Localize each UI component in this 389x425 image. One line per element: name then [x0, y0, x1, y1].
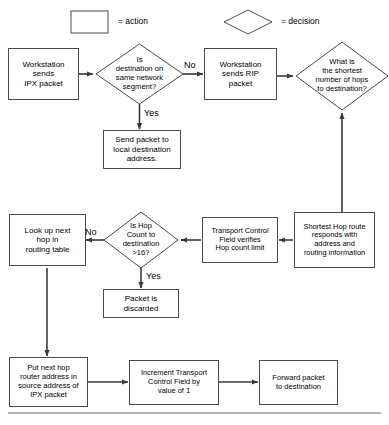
node-label: Shortest Hop route responds with address…: [295, 223, 374, 258]
node-forward-packet-to-destination[interactable]: Forward packet to destination: [259, 360, 338, 405]
decision-shape-same-segment: [96, 44, 183, 104]
edge-label-yes-top: Yes: [144, 108, 159, 118]
node-label: Forward packet to destination: [260, 374, 337, 392]
node-label: Send packet to local destination address…: [104, 135, 180, 163]
node-label: Packet is discarded: [104, 294, 178, 313]
node-workstation-sends-ipx-packet[interactable]: Workstation sends IPX packet: [8, 48, 79, 100]
node-shortest-hop-route-responds[interactable]: Shortest Hop route responds with address…: [294, 212, 375, 268]
node-send-packet-local-destination[interactable]: Send packet to local destination address…: [103, 130, 181, 169]
decision-shape-hop-count: [104, 212, 178, 268]
node-workstation-sends-rip-packet[interactable]: Workstation sends RIP packet: [204, 48, 277, 100]
node-transport-control-field-verifies[interactable]: Transport Control Field verifies Hop cou…: [202, 217, 278, 263]
legend-action-label: = action: [118, 16, 148, 26]
node-put-next-hop-router-address[interactable]: Put next hop router address in source ad…: [9, 357, 88, 407]
legend-action-shape: [71, 11, 108, 33]
edge-label-yes-mid: Yes: [146, 271, 161, 281]
node-increment-transport-control-field[interactable]: Increment Transport Control Field by val…: [129, 360, 219, 405]
node-label: Put next hop router address in source ad…: [10, 364, 87, 400]
node-look-up-next-hop[interactable]: Look up next hop in routing table: [9, 214, 86, 266]
legend-decision-label: = decision: [281, 16, 320, 26]
edge-label-no-top: No: [184, 60, 196, 70]
node-packet-is-discarded[interactable]: Packet is discarded: [103, 289, 179, 318]
flowchart-canvas: = action = decision Workstation sends IP…: [0, 0, 389, 425]
node-label: Transport Control Field verifies Hop cou…: [203, 227, 277, 253]
legend-decision-shape: [224, 10, 272, 34]
node-label: Workstation sends IPX packet: [9, 60, 78, 88]
node-label: Look up next hop in routing table: [10, 226, 85, 254]
node-label: Workstation sends RIP packet: [205, 60, 276, 88]
edge-label-no-mid: No: [85, 227, 97, 237]
node-label: Increment Transport Control Field by val…: [130, 369, 218, 395]
decision-shape-shortest-hops: [296, 42, 388, 110]
